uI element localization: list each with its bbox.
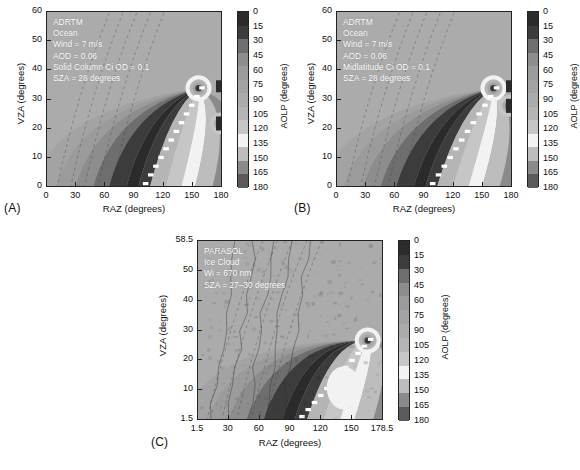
- colorbar-band: [399, 255, 409, 269]
- bright-lobe: [327, 366, 360, 409]
- noise-speckle: [327, 280, 332, 284]
- panel-c-colorbar: [398, 240, 410, 420]
- noise-speckle: [261, 349, 265, 351]
- noise-speckle: [302, 416, 305, 418]
- x-tick-label: 178.5: [364, 423, 400, 433]
- noise-speckle: [320, 291, 323, 295]
- noise-speckle: [285, 362, 287, 364]
- colorbar-band: [238, 134, 248, 148]
- y-tick-label: 0: [4, 180, 42, 190]
- noise-speckle: [271, 401, 275, 403]
- noise-speckle: [244, 304, 249, 306]
- x-tick: [320, 415, 321, 420]
- panel-a-annotation-line-4: Solid Column Ci OD = 0.1: [53, 62, 149, 73]
- x-tick-label: 180: [493, 190, 529, 200]
- contour-label-marker: [153, 165, 159, 168]
- noise-speckle: [281, 330, 285, 332]
- noise-speckle: [264, 342, 267, 345]
- noise-speckle: [378, 362, 380, 366]
- contour-label-marker: [459, 138, 465, 141]
- colorbar-tick-label: 180: [253, 182, 268, 192]
- colorbar-tick-label: 15: [253, 21, 263, 31]
- contour-label-marker: [143, 182, 149, 185]
- contour-label-marker: [199, 86, 205, 89]
- noise-speckle: [308, 401, 312, 404]
- noise-speckle: [341, 264, 343, 268]
- noise-speckle: [218, 329, 221, 333]
- colorbar-band: [399, 352, 409, 366]
- noise-speckle: [220, 367, 225, 371]
- noise-speckle: [331, 260, 335, 263]
- panel-a-annotation-line-3: AOD = 0.06: [53, 51, 149, 62]
- noise-speckle: [216, 361, 221, 362]
- noise-speckle: [267, 367, 270, 371]
- panel-a-annotations: ADRTMOceanWind = 7 m/sAOD = 0.06Solid Co…: [53, 17, 149, 84]
- panel-c-annotation-line-2: Wi = 670 nm: [204, 268, 285, 279]
- colorbar-tick-label: 120: [253, 123, 268, 133]
- noise-speckle: [354, 318, 357, 322]
- noise-speckle: [300, 391, 304, 394]
- noise-speckle: [242, 365, 246, 367]
- colorbar-tick-label: 165: [543, 167, 558, 177]
- colorbar-tick-label: 120: [543, 123, 558, 133]
- contour-label-marker: [355, 352, 361, 355]
- colorbar-tick-label: 45: [543, 50, 553, 60]
- colorbar-band: [528, 174, 538, 188]
- panel-c-xlabel: RAZ (degrees): [197, 437, 383, 448]
- noise-speckle: [302, 244, 305, 248]
- noise-speckle: [299, 257, 303, 260]
- noise-speckle: [307, 305, 310, 309]
- colorbar-band: [238, 66, 248, 80]
- noise-speckle: [350, 297, 352, 300]
- noise-speckle: [334, 418, 338, 420]
- x-tick: [424, 182, 425, 187]
- y-tick: [46, 11, 51, 12]
- colorbar-band: [528, 12, 538, 26]
- y-tick-label: 40: [4, 63, 42, 73]
- colorbar-band: [399, 379, 409, 393]
- colorbar-band: [238, 80, 248, 94]
- colorbar-band: [399, 407, 409, 421]
- colorbar-band: [528, 53, 538, 67]
- y-tick-label: 40: [294, 63, 332, 73]
- noise-speckle: [369, 244, 373, 248]
- y-tick-label: 60: [4, 5, 42, 15]
- y-tick: [46, 69, 51, 70]
- x-tick: [351, 415, 352, 420]
- noise-speckle: [320, 254, 322, 256]
- colorbar-band: [238, 39, 248, 53]
- noise-speckle: [301, 412, 305, 414]
- noise-speckle: [258, 329, 260, 332]
- noise-speckle: [235, 349, 240, 352]
- noise-speckle: [358, 279, 361, 281]
- x-tick: [228, 415, 229, 420]
- colorbar-band: [238, 12, 248, 26]
- noise-speckle: [318, 263, 321, 265]
- colorbar-tick-label: 30: [253, 35, 263, 45]
- noise-speckle: [345, 305, 350, 307]
- noise-speckle: [300, 320, 303, 323]
- colorbar-band: [238, 147, 248, 161]
- noise-speckle: [363, 347, 367, 349]
- noise-speckle: [249, 297, 251, 299]
- noise-speckle: [373, 261, 377, 264]
- colorbar-band: [528, 26, 538, 40]
- x-tick: [365, 182, 366, 187]
- noise-speckle: [293, 313, 297, 315]
- noise-speckle: [211, 410, 213, 413]
- noise-speckle: [308, 283, 312, 285]
- contour-label-marker: [184, 112, 190, 115]
- colorbar-tick-label: 45: [253, 50, 263, 60]
- noise-speckle: [339, 303, 342, 305]
- contour-label-marker: [312, 401, 318, 404]
- noise-speckle: [361, 268, 363, 269]
- y-tick: [197, 300, 202, 301]
- colorbar-band: [399, 366, 409, 380]
- y-tick-label: 30: [4, 93, 42, 103]
- panel-a-annotation-line-2: Wind = 7 m/s: [53, 39, 149, 50]
- panel-b-annotation-line-0: ADRTM: [343, 17, 430, 28]
- y-tick-label: 20: [155, 353, 193, 363]
- noise-speckle: [312, 392, 314, 396]
- y-tick-label: 20: [4, 122, 42, 132]
- contour-label-marker: [447, 156, 453, 159]
